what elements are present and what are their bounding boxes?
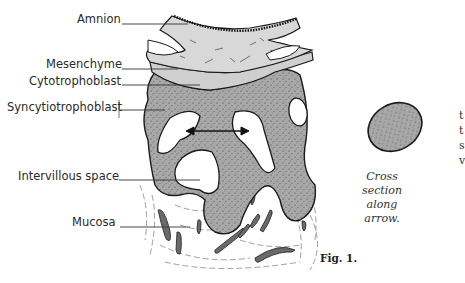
label-syncytiotrophoblast: Syncytiotrophoblast (7, 102, 122, 114)
label-cytotrophoblast: Cytotrophoblast (29, 76, 121, 88)
mesenchyme-gap-left (148, 40, 178, 55)
label-amnion: Amnion (77, 14, 121, 26)
label-intervillous-space: Intervillous space (18, 171, 119, 183)
edge-fragment: t (459, 123, 465, 138)
cross-section-caption: Cross section along arrow. (352, 170, 412, 226)
edge-text-fragments: t t s v (459, 108, 465, 168)
caption-line-1: Cross (352, 170, 412, 184)
edge-fragment: s (459, 138, 465, 153)
caption-line-3: along (352, 198, 412, 212)
label-mesenchyme: Mesenchyme (46, 59, 122, 71)
cross-section-oval (359, 93, 430, 161)
label-mucosa: Mucosa (72, 217, 116, 229)
caption-line-4: arrow. (352, 212, 412, 226)
edge-fragment: v (459, 153, 465, 168)
figure-label: Fig. 1. (320, 252, 357, 264)
edge-fragment: t (459, 108, 465, 123)
caption-line-2: section (352, 184, 412, 198)
